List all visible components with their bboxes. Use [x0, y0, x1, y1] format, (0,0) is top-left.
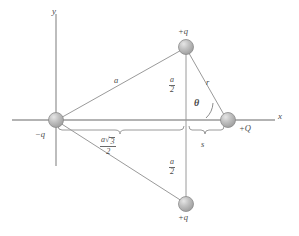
charge-test-sphere — [221, 113, 236, 128]
charge-bottom-sphere — [179, 197, 194, 212]
segment-a-upper — [57, 48, 185, 120]
y-axis-label: y — [52, 7, 56, 16]
brace-apothem — [58, 126, 184, 134]
charge-test-label: +Q — [239, 124, 251, 133]
charge-left-label: −q — [35, 130, 45, 139]
half-a-bottom-denominator: 2 — [169, 168, 175, 177]
theta-arc — [206, 103, 213, 118]
half-a-top-denominator: 2 — [169, 86, 175, 95]
diagram-canvas — [0, 0, 299, 236]
segment-r-label: r — [206, 78, 209, 87]
charge-left-sphere — [49, 113, 64, 128]
segment-a-label: a — [114, 76, 118, 85]
charge-top-label: +q — [178, 27, 188, 36]
half-a-top-numerator: a — [169, 76, 175, 85]
x-axis-label: x — [278, 112, 282, 121]
half-a-bottom-numerator: a — [169, 158, 175, 167]
brace-s — [189, 126, 224, 134]
half-a-bottom-fraction: a 2 — [169, 158, 175, 177]
segment-a-lower — [57, 121, 185, 203]
apothem-numerator: a√3 — [100, 136, 116, 146]
half-a-top-fraction: a 2 — [169, 76, 175, 95]
axis-lines — [12, 14, 275, 166]
segment-s-label: s — [201, 140, 204, 149]
construction-lines — [57, 48, 227, 203]
charge-top-sphere — [179, 40, 194, 55]
dimension-braces — [58, 126, 224, 134]
charge-bottom-label: +q — [178, 213, 188, 222]
theta-label: θ — [194, 98, 199, 108]
apothem-fraction: a√3 2 — [100, 136, 116, 156]
apothem-radicand: 3 — [109, 137, 115, 146]
sqrt-icon: √3 — [105, 136, 115, 146]
physics-diagram: y x +q −q +q +Q a r s θ a 2 a 2 a√3 2 — [0, 0, 299, 236]
charge-spheres — [49, 40, 236, 212]
apothem-denominator: 2 — [105, 147, 111, 156]
